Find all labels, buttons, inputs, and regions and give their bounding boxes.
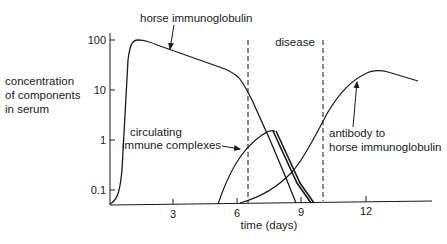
x-axis-label: time (days)	[241, 219, 298, 231]
x-axis: 3 6 9 12 time (days)	[110, 196, 432, 231]
series-circulating-immune-complexes	[218, 131, 275, 204]
annotation-complexes-line1: circulating	[130, 126, 182, 138]
x-tick-9: 9	[298, 206, 304, 218]
y-tick-1: 1	[100, 134, 106, 146]
annotation-antibody-line2: horse immunoglobulin	[329, 141, 442, 153]
series-horse-immunoglobulin	[110, 40, 296, 204]
x-tick-3: 3	[170, 208, 176, 220]
x-tick-12: 12	[360, 205, 372, 217]
series-immune-complexes-descending	[273, 131, 314, 203]
annotation-horse-immunoglobulin: horse immunoglobulin	[140, 12, 253, 24]
disease-label: disease	[275, 36, 315, 48]
x-tick-6: 6	[234, 207, 240, 219]
annotation-complexes-line2: immune complexes	[122, 139, 221, 151]
y-tick-100: 100	[88, 34, 106, 46]
y-tick-10: 10	[94, 84, 106, 96]
y-tick-0.1: 0.1	[91, 184, 106, 196]
annotation-antibody-line1: antibody to	[329, 127, 385, 139]
chart: 100 10 1 0.1 3 6 9 12 time (days) diseas…	[0, 0, 447, 244]
y-axis: 100 10 1 0.1	[88, 33, 115, 205]
